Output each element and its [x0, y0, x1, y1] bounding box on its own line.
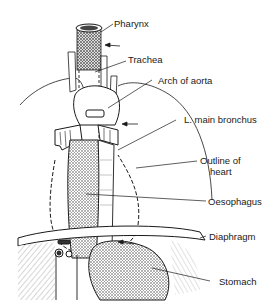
label-l-main-bronchus: L. main bronchus — [184, 114, 257, 125]
label-outline-of-heart-line1: Outline of — [200, 155, 241, 166]
label-trachea: Trachea — [128, 54, 163, 65]
label-arch-of-aorta: Arch of aorta — [158, 75, 212, 86]
label-outline-of-heart-line2: heart — [210, 166, 232, 177]
label-oesophagus: Oesophagus — [208, 196, 262, 207]
oesophagus-shape — [68, 140, 99, 258]
oesophagus-illustration — [0, 0, 274, 307]
stomach-shape — [89, 241, 169, 300]
anatomy-diagram: Pharynx Trachea Arch of aorta L. main br… — [0, 0, 274, 307]
label-diaphragm: Diaphragm — [209, 231, 255, 242]
label-stomach: Stomach — [219, 276, 257, 287]
label-pharynx: Pharynx — [114, 18, 149, 29]
pharynx-shape — [76, 24, 102, 70]
